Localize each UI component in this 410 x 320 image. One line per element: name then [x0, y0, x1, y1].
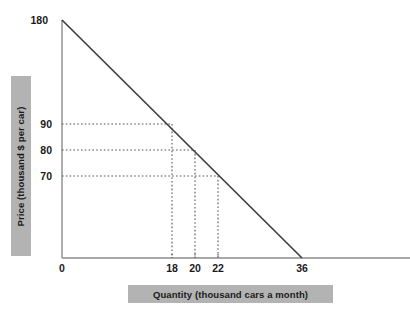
y-tick-label-90: 90: [22, 118, 52, 130]
x-tick-label-22: 22: [203, 262, 233, 274]
y-tick-label-70: 70: [22, 170, 52, 182]
demand-curve: [62, 20, 302, 258]
x-tick-label-36: 36: [287, 262, 317, 274]
y-tick-label-80: 80: [22, 144, 52, 156]
y-tick-label-180: 180: [18, 14, 48, 26]
demand-curve-figure: Price (thousand $ per car) Quantity (tho…: [0, 0, 410, 320]
x-tick-label-0: 0: [47, 262, 77, 274]
